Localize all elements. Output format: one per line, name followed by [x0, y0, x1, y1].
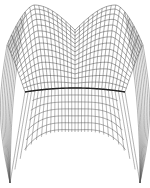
- mesh-line: [85, 18, 89, 89]
- mesh-line: [42, 89, 45, 136]
- mesh-line: [31, 90, 38, 144]
- mesh-line: [98, 7, 106, 89]
- mesh-line: [51, 89, 52, 133]
- mesh-line: [66, 21, 68, 88]
- mesh-line: [48, 8, 55, 88]
- mesh-front-lines: [10, 88, 140, 183]
- mesh-line: [98, 89, 99, 133]
- mesh-line: [78, 26, 79, 88]
- mesh-line: [10, 92, 25, 183]
- mesh-line: [25, 130, 126, 150]
- mesh-line: [43, 7, 51, 89]
- mesh-line: [95, 8, 102, 88]
- mesh-line: [70, 26, 71, 88]
- wireframe-surface: [0, 0, 150, 188]
- mesh-line: [15, 91, 28, 169]
- mesh-line: [112, 90, 119, 144]
- mesh-line: [122, 91, 135, 169]
- mesh-line: [61, 18, 65, 89]
- mesh-line: [105, 89, 108, 136]
- mesh-line: [125, 92, 140, 183]
- mesh-line: [46, 89, 48, 134]
- mesh-line: [82, 21, 84, 88]
- mesh-line: [102, 89, 104, 134]
